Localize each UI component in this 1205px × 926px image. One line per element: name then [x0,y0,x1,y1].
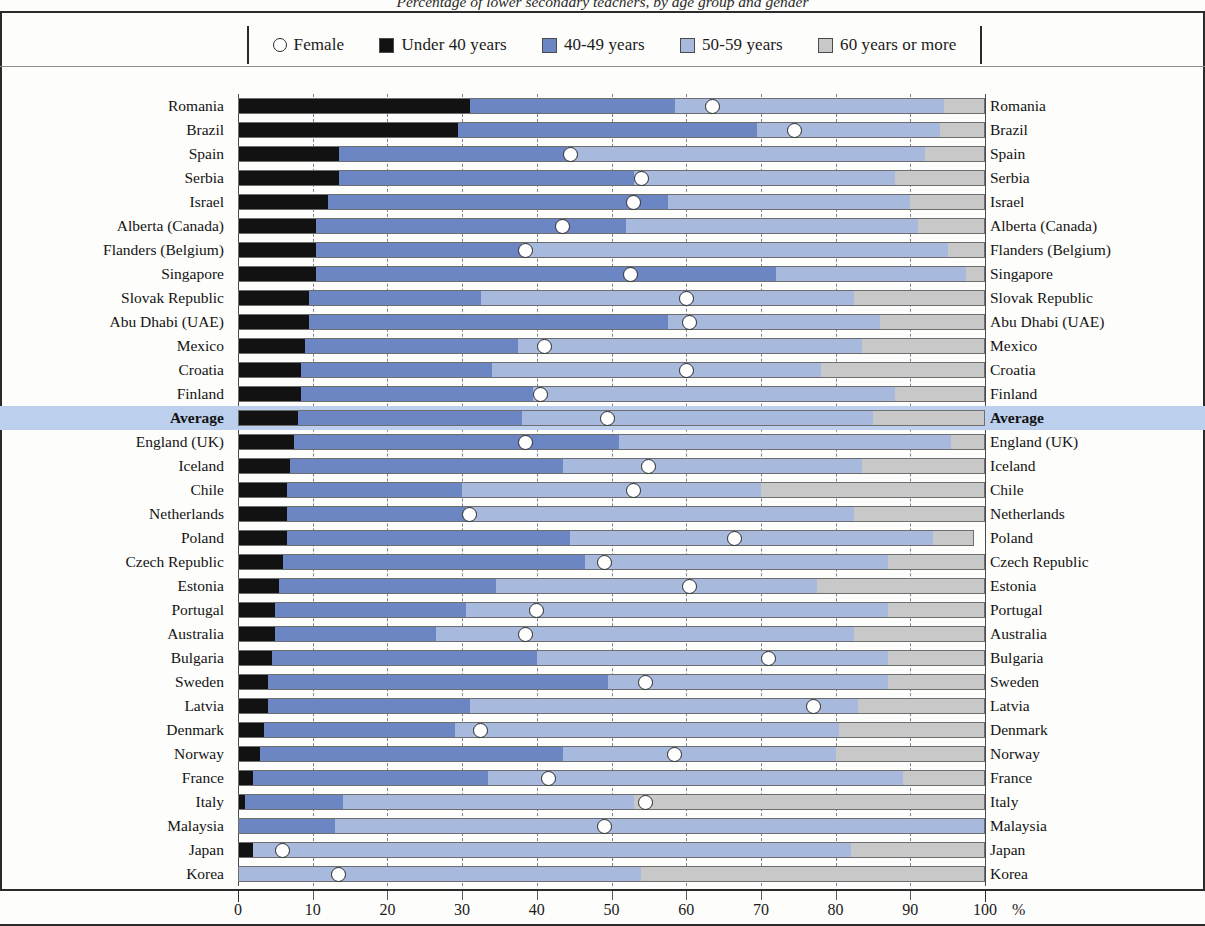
row-label-right: Chile [990,478,1024,502]
bar-segment-a4049 [287,530,571,546]
axis-tick-30 [462,891,463,900]
bar-segment-a4049 [260,746,563,762]
chart-row: Abu Dhabi (UAE)Abu Dhabi (UAE) [0,310,1205,334]
row-label-right: Serbia [990,166,1030,190]
row-label-left: Netherlands [0,502,228,526]
stacked-bar [238,194,985,210]
bar-segment-a5059 [533,386,895,402]
row-label-left: Korea [0,862,228,886]
axis-tick-label: 90 [902,901,918,919]
bar-segment-under40 [238,746,260,762]
bar-segment-a4049 [268,674,608,690]
bar-segment-a60plus [641,866,985,882]
female-marker [623,267,638,282]
bar-segment-a5059 [518,338,862,354]
stacked-bar [238,434,985,450]
row-label-right: Portugal [990,598,1043,622]
bar-segment-a5059 [537,650,888,666]
row-label-left: Latvia [0,694,228,718]
row-label-right: Average [990,406,1044,430]
60-or-more-swatch [818,38,833,53]
bar-segment-a60plus [933,530,974,546]
bar-segment-under40 [238,482,287,498]
row-label-left: Norway [0,742,228,766]
legend-label: 60 years or more [840,35,956,55]
stacked-bar [238,842,985,858]
row-label-right: Iceland [990,454,1036,478]
female-marker [600,411,615,426]
chart-row: KoreaKorea [0,862,1205,886]
bar-segment-a5059 [570,530,932,546]
stacked-bar [238,506,985,522]
bar-segment-a4049 [316,242,521,258]
legend-underline [0,66,1205,67]
stacked-bar [238,698,985,714]
bar-segment-a4049 [238,818,335,834]
bar-segment-a60plus [862,458,985,474]
bar-segment-a4049 [287,506,466,522]
bar-segment-a60plus [925,146,985,162]
row-label-right: Latvia [990,694,1030,718]
bar-segment-a60plus [821,362,985,378]
bar-segment-under40 [238,458,290,474]
bar-segment-a5059 [668,194,911,210]
row-label-right: Finland [990,382,1037,406]
chart-row: PortugalPortugal [0,598,1205,622]
female-marker [273,38,287,52]
bar-segment-a5059 [567,146,926,162]
axis-tick-50 [612,891,613,900]
bar-segment-a4049 [287,482,463,498]
female-marker [555,219,570,234]
bar-segment-a60plus [634,794,985,810]
bar-segment-a60plus [880,314,985,330]
row-label-right: England (UK) [990,430,1078,454]
stacked-bar [238,122,985,138]
female-marker [679,291,694,306]
bar-segment-a60plus [888,554,985,570]
female-marker [682,315,697,330]
bar-segment-under40 [238,410,298,426]
row-label-right: Estonia [990,574,1037,598]
legend-label: 50-59 years [702,35,783,55]
chart-row: Slovak RepublicSlovak Republic [0,286,1205,310]
bar-segment-a4049 [253,770,488,786]
row-label-left: Japan [0,838,228,862]
chart-row: PolandPoland [0,526,1205,550]
bar-segment-a60plus [851,842,985,858]
row-label-left: Slovak Republic [0,286,228,310]
female-marker [533,387,548,402]
chart-legend: FemaleUnder 40 years40-49 years50-59 yea… [247,26,982,64]
female-marker [667,747,682,762]
row-label-right: Netherlands [990,502,1065,526]
bar-segment-under40 [238,194,328,210]
bar-segment-a60plus [948,242,985,258]
row-label-left: Portugal [0,598,228,622]
row-label-right: France [990,766,1032,790]
bar-segment-a4049 [301,386,533,402]
row-label-left: Abu Dhabi (UAE) [0,310,228,334]
row-label-right: Poland [990,526,1033,550]
bar-segment-under40 [238,554,283,570]
female-marker [761,651,776,666]
female-marker [626,483,641,498]
axis-tick-40 [537,891,538,900]
female-marker [638,675,653,690]
bar-segment-a4049 [316,218,626,234]
chart-row: Alberta (Canada)Alberta (Canada) [0,214,1205,238]
row-label-right: Mexico [990,334,1037,358]
legend-label: Under 40 years [401,35,506,55]
bar-segment-a4049 [279,578,496,594]
bar-segment-a5059 [522,410,873,426]
row-label-right: Norway [990,742,1040,766]
stacked-bar [238,482,985,498]
female-marker [806,699,821,714]
bar-segment-a60plus [895,386,985,402]
row-label-right: Korea [990,862,1028,886]
stacked-bar [238,386,985,402]
female-marker [787,123,802,138]
chart-row: MexicoMexico [0,334,1205,358]
row-label-right: Denmark [990,718,1048,742]
row-label-right: Croatia [990,358,1036,382]
row-label-right: Singapore [990,262,1053,286]
bar-segment-under40 [238,650,272,666]
